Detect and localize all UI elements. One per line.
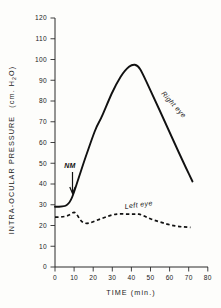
y-axis-title-units-end: O) (7, 66, 16, 76)
x-axis-ticks (55, 267, 208, 272)
svg-text:INTRA-OCULAR PRESSURE: INTRA-OCULAR PRESSURE (cm. H2O) (7, 66, 17, 235)
y-axis-title: INTRA-OCULAR PRESSURE (cm. H2O) (7, 66, 17, 235)
y-tick-label: 30 (39, 201, 47, 208)
y-axis-title-units: (cm. H (7, 80, 16, 108)
y-tick-label: 70 (39, 118, 47, 125)
series-left-eye (55, 212, 191, 227)
y-axis-tick-labels: 0 10 20 30 40 50 60 70 80 90 100 110 120 (35, 14, 47, 270)
y-tick-label: 60 (39, 139, 47, 146)
y-tick-label: 80 (39, 97, 47, 104)
y-axis-ticks (51, 18, 56, 267)
y-tick-label: 110 (36, 35, 47, 42)
y-tick-label: 90 (39, 77, 47, 84)
x-tick-label: 10 (70, 274, 78, 281)
series-right-eye (55, 65, 193, 207)
annotation-nm: NM (64, 162, 76, 194)
x-tick-label: 20 (89, 274, 97, 281)
annotation-nm-label: NM (64, 162, 76, 169)
x-tick-label: 0 (53, 274, 57, 281)
y-tick-label: 0 (43, 263, 47, 270)
x-tick-label: 60 (166, 274, 174, 281)
y-tick-label: 10 (39, 243, 47, 250)
chart-canvas: 0 10 20 30 40 50 60 70 80 90 100 110 120 (0, 0, 221, 308)
x-axis-tick-labels: 0 10 20 30 40 50 60 70 80 (53, 274, 212, 281)
y-tick-label: 50 (39, 160, 47, 167)
x-tick-label: 50 (147, 274, 155, 281)
series-label-right-eye: Right eye (159, 90, 187, 120)
y-tick-label: 100 (35, 56, 47, 63)
x-tick-label: 70 (185, 274, 193, 281)
y-axis-title-main: INTRA-OCULAR PRESSURE (7, 116, 16, 235)
figure-container: 0 10 20 30 40 50 60 70 80 90 100 110 120 (0, 0, 221, 308)
series-label-left-eye: Left eye (124, 199, 153, 211)
y-tick-label: 120 (35, 14, 47, 21)
x-tick-label: 30 (108, 274, 116, 281)
y-tick-label: 40 (39, 180, 47, 187)
x-axis-title: TIME (min.) (106, 288, 156, 297)
x-tick-label: 40 (127, 274, 135, 281)
x-tick-label: 80 (204, 274, 212, 281)
y-tick-label: 20 (39, 222, 47, 229)
